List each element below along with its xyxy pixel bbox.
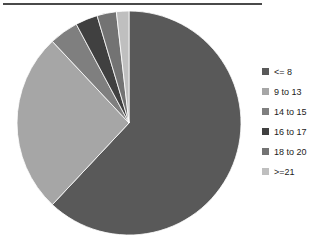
- legend-swatch-icon: [262, 148, 269, 155]
- legend-item[interactable]: 9 to 13: [262, 82, 333, 101]
- pie-plot-area: [16, 10, 242, 236]
- legend-item-label: >=21: [274, 167, 295, 177]
- top-divider-rule: [3, 3, 262, 5]
- legend-swatch-icon: [262, 108, 269, 115]
- legend-swatch-icon: [262, 88, 269, 95]
- legend-item[interactable]: 14 to 15: [262, 102, 333, 121]
- pie-chart-figure: <= 89 to 1314 to 1516 to 1718 to 20>=21: [0, 0, 333, 246]
- legend-item[interactable]: >=21: [262, 162, 333, 181]
- legend-item[interactable]: <= 8: [262, 62, 333, 81]
- legend-swatch-icon: [262, 168, 269, 175]
- legend-item-label: 14 to 15: [274, 107, 307, 117]
- legend-swatch-icon: [262, 128, 269, 135]
- legend-item-label: 16 to 17: [274, 127, 307, 137]
- pie-slice-group: [17, 11, 241, 235]
- legend-item[interactable]: 16 to 17: [262, 122, 333, 141]
- pie-svg: [16, 10, 242, 236]
- legend-item-label: 18 to 20: [274, 147, 307, 157]
- legend-swatch-icon: [262, 68, 269, 75]
- legend-item-label: <= 8: [274, 67, 292, 77]
- legend-item-label: 9 to 13: [274, 87, 302, 97]
- legend-item[interactable]: 18 to 20: [262, 142, 333, 161]
- chart-legend: <= 89 to 1314 to 1516 to 1718 to 20>=21: [262, 62, 333, 182]
